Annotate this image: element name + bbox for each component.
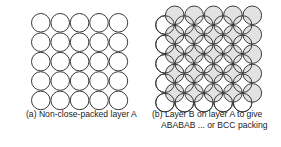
sphere-layer-a (109, 13, 128, 32)
sphere-layer-a (32, 33, 51, 52)
sphere-layer-b (204, 25, 223, 44)
sphere-layer-a (70, 13, 89, 32)
sphere-layer-a (90, 91, 109, 110)
sphere-layer-b (165, 64, 184, 83)
sphere-layer-a (90, 52, 109, 71)
sphere-layer-a (51, 72, 70, 91)
sphere-layer-b (243, 45, 262, 64)
sphere-layer-a (109, 52, 128, 71)
sphere-layer-a (70, 52, 89, 71)
sphere-layer-b (165, 45, 184, 64)
sphere-layer-a (70, 72, 89, 91)
layer-a-grid-panel-a (32, 13, 128, 109)
sphere-layer-b (204, 84, 223, 103)
sphere-layer-b (243, 64, 262, 83)
sphere-layer-b (204, 6, 223, 25)
sphere-layer-a (32, 91, 51, 110)
sphere-layer-b (185, 64, 204, 83)
caption-panel-a: (a) Non-close-packed layer A (26, 109, 137, 120)
sphere-layer-a (109, 33, 128, 52)
sphere-layer-a (70, 33, 89, 52)
sphere-layer-a (51, 52, 70, 71)
sphere-layer-b (204, 45, 223, 64)
caption-panel-b-line2: ABABAB ... or BCC packing (161, 120, 268, 131)
layer-b-grid-panel-b (165, 6, 261, 102)
sphere-layer-b (224, 84, 243, 103)
sphere-layer-b (224, 45, 243, 64)
sphere-layer-a (109, 91, 128, 110)
sphere-layer-b (165, 84, 184, 103)
sphere-layer-b (204, 64, 223, 83)
caption-panel-b-line1: (b) Layer B on layer A to give (152, 109, 262, 120)
sphere-layer-a (51, 13, 70, 32)
sphere-layer-b (165, 25, 184, 44)
sphere-layer-b (185, 6, 204, 25)
sphere-layer-a (51, 91, 70, 110)
sphere-layer-b (224, 6, 243, 25)
sphere-layer-a (51, 33, 70, 52)
sphere-layer-a (90, 33, 109, 52)
sphere-layer-b (165, 6, 184, 25)
sphere-layer-b (185, 45, 204, 64)
sphere-layer-a (90, 13, 109, 32)
sphere-layer-b (224, 64, 243, 83)
sphere-layer-b (243, 25, 262, 44)
sphere-layer-a (32, 13, 51, 32)
sphere-layer-a (90, 72, 109, 91)
sphere-layer-a (70, 91, 89, 110)
sphere-layer-b (185, 25, 204, 44)
sphere-layer-a (32, 72, 51, 91)
sphere-layer-b (243, 84, 262, 103)
sphere-layer-b (243, 6, 262, 25)
sphere-layer-a (32, 52, 51, 71)
sphere-layer-b (185, 84, 204, 103)
sphere-layer-a (109, 72, 128, 91)
sphere-layer-b (224, 25, 243, 44)
